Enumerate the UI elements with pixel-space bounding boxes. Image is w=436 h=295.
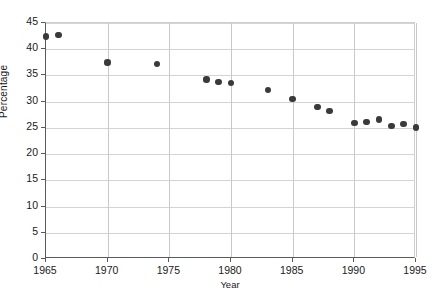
gridline-horizontal (46, 154, 414, 155)
y-tick-label: 10 (26, 199, 38, 211)
y-axis-label: Percentage (0, 65, 9, 118)
gridline-vertical (169, 23, 170, 257)
y-tick-mark (41, 48, 45, 49)
scatter-plot-figure: 051015202530354045 196519701975198019851… (0, 0, 436, 295)
gridline-horizontal (46, 233, 414, 234)
gridline-horizontal (46, 207, 414, 208)
x-axis-label-text: Year (220, 279, 239, 290)
plot-area (45, 22, 415, 258)
y-tick-mark (41, 74, 45, 75)
data-point (363, 119, 369, 125)
y-tick-mark (41, 179, 45, 180)
data-point (228, 80, 234, 86)
x-tick-mark (107, 258, 108, 262)
x-tick-mark (292, 258, 293, 262)
y-tick-mark (41, 22, 45, 23)
gridline-vertical (231, 23, 232, 257)
y-tick-mark (41, 101, 45, 102)
data-point (104, 59, 110, 65)
data-point (326, 108, 332, 114)
data-point (413, 124, 419, 130)
data-point (203, 76, 209, 82)
gridline-horizontal (46, 49, 414, 50)
y-tick-label: 45 (26, 15, 38, 27)
data-point (376, 116, 382, 122)
x-tick-label: 1985 (280, 264, 303, 276)
gridline-horizontal (46, 180, 414, 181)
gridline-horizontal (46, 102, 414, 103)
x-tick-mark (415, 258, 416, 262)
x-tick-label: 1980 (218, 264, 241, 276)
data-point (215, 79, 221, 85)
x-tick-label: 1970 (95, 264, 118, 276)
x-tick-label: 1965 (33, 264, 56, 276)
gridline-horizontal (46, 23, 414, 24)
gridline-vertical (293, 23, 294, 257)
gridline-vertical (416, 23, 417, 257)
gridline-horizontal (46, 128, 414, 129)
y-tick-label: 5 (32, 225, 38, 237)
x-tick-mark (353, 258, 354, 262)
y-tick-label: 40 (26, 41, 38, 53)
data-point (154, 61, 160, 67)
y-tick-mark (41, 206, 45, 207)
gridline-horizontal (46, 75, 414, 76)
x-tick-mark (230, 258, 231, 262)
y-tick-label: 15 (26, 172, 38, 184)
data-point (314, 104, 320, 110)
y-tick-label: 30 (26, 94, 38, 106)
data-point (388, 123, 394, 129)
data-point (55, 32, 61, 38)
gridline-vertical (108, 23, 109, 257)
gridline-vertical (354, 23, 355, 257)
y-tick-label: 0 (32, 251, 38, 263)
x-axis-label: Year (0, 279, 436, 290)
y-tick-mark (41, 153, 45, 154)
data-point (351, 120, 357, 126)
y-tick-label: 35 (26, 67, 38, 79)
x-tick-label: 1975 (157, 264, 180, 276)
x-tick-label: 1995 (403, 264, 426, 276)
y-tick-mark (41, 127, 45, 128)
data-point (43, 33, 49, 39)
y-tick-mark (41, 232, 45, 233)
data-point (265, 87, 271, 93)
data-point (400, 121, 406, 127)
x-tick-label: 1990 (342, 264, 365, 276)
y-tick-label: 20 (26, 146, 38, 158)
x-tick-mark (45, 258, 46, 262)
x-tick-mark (168, 258, 169, 262)
y-tick-label: 25 (26, 120, 38, 132)
data-point (289, 96, 295, 102)
